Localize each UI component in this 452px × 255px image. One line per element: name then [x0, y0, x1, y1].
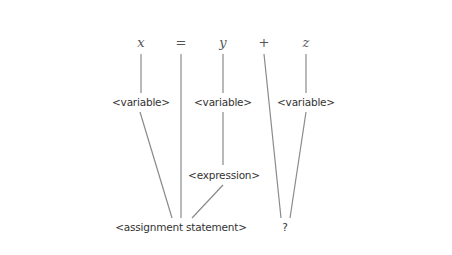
token-equals: =: [176, 35, 187, 50]
edge-plus-to-unknown: [264, 54, 281, 218]
node-expression: <expression>: [188, 169, 260, 181]
token-y: y: [219, 35, 226, 50]
edge-var_x-to-assign: [140, 112, 172, 218]
parse-tree-diagram: x = y + z <variable> <variable> <variabl…: [0, 0, 452, 255]
node-variable-y: <variable>: [194, 96, 252, 108]
token-z: z: [303, 35, 310, 50]
token-plus: +: [259, 35, 270, 50]
token-x: x: [137, 35, 144, 50]
node-variable-x: <variable>: [112, 96, 170, 108]
node-variable-z: <variable>: [277, 96, 335, 108]
node-unknown: ?: [282, 221, 287, 233]
edge-var_z-to-unknown: [290, 112, 306, 218]
node-assignment-statement: <assignment statement>: [115, 221, 247, 233]
edge-expr-to-assign: [192, 185, 223, 218]
